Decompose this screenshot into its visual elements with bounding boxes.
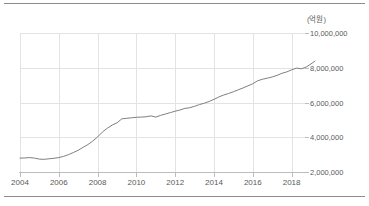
x-tick-label: 2006 — [50, 178, 68, 187]
y-axis-unit-label: (억원) — [307, 13, 326, 24]
x-tick-label: 2012 — [166, 178, 184, 187]
y-tick-label: 8,000,000 — [310, 63, 343, 72]
x-tick-label: 2018 — [283, 178, 301, 187]
data-line-series — [20, 61, 315, 159]
y-tick-label: 6,000,000 — [310, 98, 343, 107]
chart-figure: (억원) 2,000,0004,000,0006,000,0008,000,00… — [0, 0, 369, 206]
x-tick-label: 2014 — [205, 178, 223, 187]
x-tick-label: 2008 — [89, 178, 107, 187]
x-tick-label: 2010 — [127, 178, 145, 187]
y-tick-label: 10,000,000 — [310, 29, 348, 38]
x-tick-label: 2004 — [11, 178, 29, 187]
x-tick-label: 2016 — [244, 178, 262, 187]
horizontal-gridlines — [20, 34, 305, 138]
plot-area: (억원) 2,000,0004,000,0006,000,0008,000,00… — [0, 0, 369, 206]
axis-tickmarks — [21, 34, 310, 177]
vertical-gridlines — [21, 33, 293, 172]
y-tick-label: 2,000,000 — [310, 168, 343, 177]
y-tick-label: 4,000,000 — [310, 133, 343, 142]
